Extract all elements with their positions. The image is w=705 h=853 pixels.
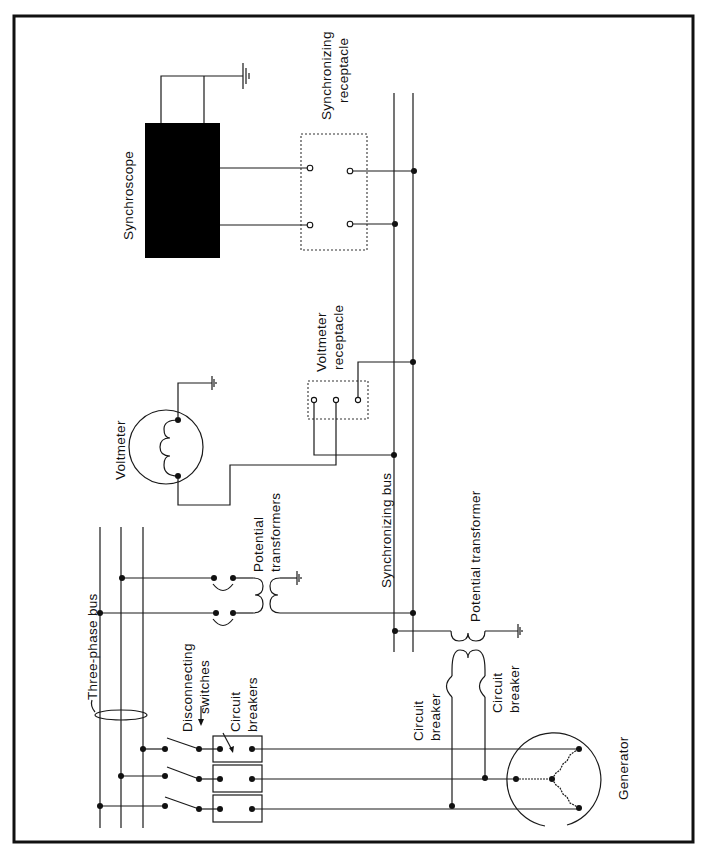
- ground-icon: [212, 376, 216, 390]
- synchronizing-receptacle-label-line1: Synchronizing: [319, 31, 334, 120]
- synchroscope: [145, 63, 307, 258]
- potential-transformers-label-line2: transformers: [268, 493, 283, 572]
- disconnecting-switches-label-line2: switches: [197, 660, 212, 714]
- synchronizing-bus-label: Synchronizing bus: [379, 473, 394, 588]
- disconnecting-switches-label-line1: Disconnecting: [180, 643, 195, 732]
- voltmeter-label: Voltmeter: [113, 420, 128, 480]
- potential-transformer-label: Potential transformer: [468, 490, 483, 622]
- synchronizing-bus: [394, 93, 413, 652]
- voltmeter: [129, 376, 216, 484]
- synchronizing-circuit-diagram: Synchroscope Synchronizing receptacle Sy…: [0, 0, 705, 853]
- voltmeter-receptacle-label-line2: receptacle: [331, 305, 346, 370]
- three-phase-bus-label: Three-phase bus: [85, 593, 100, 700]
- ground-icon: [243, 63, 249, 89]
- ground-icon: [297, 571, 301, 585]
- circuit-breakers-label-line1: Circuit: [228, 692, 243, 732]
- synchronizing-receptacle-label-line2: receptacle: [336, 38, 351, 103]
- potential-transformers: [97, 571, 416, 626]
- synchroscope-body: [145, 123, 220, 258]
- circuit-breaker-right-label-line1: Circuit: [490, 673, 505, 713]
- ground-icon: [518, 624, 522, 638]
- voltmeter-receptacle-label-line1: Voltmeter: [314, 312, 329, 372]
- circuit-breaker-left-label-line1: Circuit: [411, 701, 426, 741]
- potential-transformers-label-line1: Potential: [251, 517, 266, 572]
- synchronizing-receptacle: [301, 134, 417, 250]
- synchroscope-label: Synchroscope: [121, 151, 136, 240]
- circuit-breaker-right-label-line2: breaker: [507, 665, 522, 713]
- generator-label: Generator: [616, 736, 631, 800]
- circuit-breakers-label-line2: breakers: [245, 677, 260, 732]
- circuit-breakers: [199, 733, 579, 822]
- generator: [507, 733, 601, 826]
- circuit-breaker-left-label-line2: breaker: [428, 693, 443, 741]
